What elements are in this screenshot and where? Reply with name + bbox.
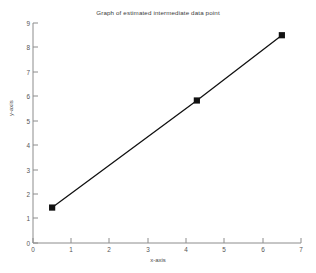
y-tick-label: 3 <box>22 167 30 174</box>
x-tick-label: 6 <box>261 246 265 253</box>
x-tick-label: 4 <box>184 246 188 253</box>
y-axis-ticks <box>33 23 38 243</box>
y-tick-label: 2 <box>22 191 30 198</box>
y-tick-label: 1 <box>22 215 30 222</box>
data-point-marker <box>49 204 55 210</box>
y-tick-label: 7 <box>22 69 30 76</box>
x-axis-ticks <box>33 238 301 243</box>
data-series-line <box>52 35 282 207</box>
x-tick-label: 5 <box>222 246 226 253</box>
y-tick-label: 0 <box>22 240 30 247</box>
y-tick-label: 6 <box>22 93 30 100</box>
x-tick-label: 7 <box>299 246 303 253</box>
data-point-marker <box>194 97 200 103</box>
x-tick-label: 3 <box>146 246 150 253</box>
chart-figure: Graph of estimated intermediate data poi… <box>0 0 316 273</box>
plot-area <box>0 0 316 273</box>
x-tick-label: 0 <box>31 246 35 253</box>
x-tick-label: 2 <box>107 246 111 253</box>
y-tick-label: 5 <box>22 118 30 125</box>
data-point-marker <box>279 32 285 38</box>
y-tick-label: 8 <box>22 44 30 51</box>
x-tick-label: 1 <box>69 246 73 253</box>
y-tick-label: 4 <box>22 142 30 149</box>
y-axis-label: y-axis <box>8 100 14 116</box>
x-axis-label: x-axis <box>0 257 316 263</box>
y-tick-label: 9 <box>22 20 30 27</box>
